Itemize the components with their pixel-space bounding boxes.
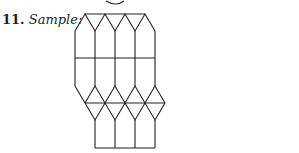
partial-circle-arc	[106, 1, 124, 4]
sample-figure	[0, 0, 299, 153]
